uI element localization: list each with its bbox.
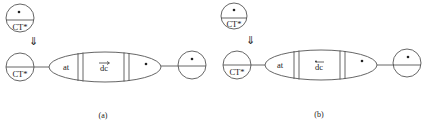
left-node: CT* xyxy=(223,51,251,79)
panel-a: CT* ⇓ CT* at dc xyxy=(6,4,206,120)
chain-ellipse: at dc xyxy=(265,50,377,80)
segment-label-dc: dc xyxy=(315,62,323,72)
segment-label-dc: dc xyxy=(100,63,108,73)
marker-dot-icon xyxy=(361,60,364,63)
panel-b: CT* ⇓ CT* at dc xyxy=(221,3,421,119)
marker-dot-icon xyxy=(233,9,236,12)
double-down-arrow-icon: ⇓ xyxy=(246,34,255,46)
marker-dot-icon xyxy=(191,58,194,61)
node-label: CT* xyxy=(226,19,241,29)
right-node xyxy=(178,51,206,79)
segment-label-at: at xyxy=(63,62,70,72)
node-label: CT* xyxy=(229,67,244,77)
panel-caption: (a) xyxy=(99,111,108,120)
marker-dot-icon xyxy=(18,11,21,14)
marker-dot-icon xyxy=(407,56,410,59)
top-node: CT* xyxy=(221,3,247,29)
panel-caption: (b) xyxy=(314,110,324,119)
top-node: CT* xyxy=(6,4,34,32)
node-label: CT* xyxy=(12,69,27,79)
double-down-arrow-icon: ⇓ xyxy=(29,35,38,47)
node-label: CT* xyxy=(12,22,27,32)
segment-label-at: at xyxy=(277,60,284,70)
figure: CT* ⇓ CT* at dc xyxy=(0,0,425,128)
chain-ellipse: at dc xyxy=(49,52,161,82)
right-node xyxy=(393,49,421,77)
left-node: CT* xyxy=(6,53,34,81)
marker-dot-icon xyxy=(145,63,148,66)
